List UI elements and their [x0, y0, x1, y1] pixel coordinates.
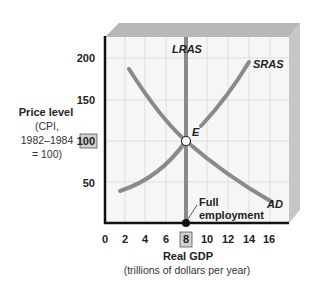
box-top-face [105, 23, 300, 37]
y-axis-title: Price level [19, 106, 73, 118]
y-tick-150: 150 [77, 94, 95, 106]
y-axis-sub-2: 1982–1984 [21, 134, 74, 146]
full-employment-label-1: Full [199, 196, 219, 208]
x-axis-title: Real GDP [163, 250, 213, 262]
chart: LRAS SRAS AD E Full employment 200 150 1… [0, 0, 316, 284]
x-tick-4: 4 [142, 233, 149, 245]
ad-label: AD [266, 198, 283, 210]
box-right-face [289, 23, 300, 223]
x-axis-subtitle: (trillions of dollars per year) [124, 264, 251, 276]
x-tick-8: 8 [183, 233, 189, 245]
equilibrium-point [182, 137, 191, 146]
x-tick-6: 6 [163, 233, 169, 245]
y-tick-200: 200 [77, 52, 95, 64]
full-employment-point [182, 219, 190, 227]
x-tick-2: 2 [122, 233, 128, 245]
x-tick-0: 0 [102, 233, 108, 245]
sras-label: SRAS [253, 58, 284, 70]
e-label: E [192, 126, 200, 138]
y-tick-100: 100 [77, 135, 95, 147]
y-tick-50: 50 [83, 177, 95, 189]
x-tick-14: 14 [243, 233, 256, 245]
y-axis-sub-1: (CPI, [35, 120, 59, 132]
x-tick-16: 16 [263, 233, 275, 245]
y-axis-sub-3: = 100) [32, 148, 62, 160]
x-tick-10: 10 [201, 233, 213, 245]
x-tick-12: 12 [222, 233, 234, 245]
full-employment-label-2: employment [199, 209, 264, 221]
lras-label: LRAS [172, 43, 203, 55]
